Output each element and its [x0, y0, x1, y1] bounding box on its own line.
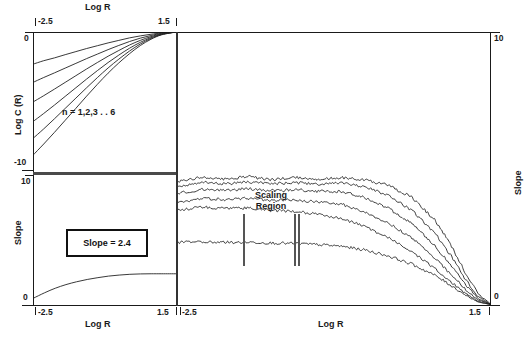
ll-xtick-min: [35, 307, 36, 315]
right-y-axis-title: Slope: [514, 170, 523, 195]
ll-xtick-min-label: -2.5: [38, 308, 53, 317]
slope-value-box: Slope = 2.4: [66, 229, 148, 257]
scaling-region-marker-right-2: [298, 214, 300, 266]
ul-xtick-min: [35, 18, 36, 26]
curve-n-2: [33, 32, 176, 82]
right-axis-left: [176, 32, 178, 306]
ll-xtick-max-label: 1.5: [157, 308, 169, 317]
panel-upper-left: [33, 32, 176, 172]
panel-divider-horizontal: [33, 172, 177, 175]
ul-xtick-min-label: -2.5: [38, 17, 53, 26]
ll-axis-left: [33, 175, 34, 305]
scaling-region-label: Scaling Region: [243, 190, 299, 212]
curve-n-5: [33, 32, 176, 138]
curve-n-2: [178, 206, 490, 304]
ul-xtick-max: [176, 18, 177, 26]
right-ytick-top-label: 10: [494, 34, 503, 43]
ul-ytick-bottom: [22, 170, 33, 171]
ll-ytick-top-label: 10: [21, 177, 30, 186]
upper-left-curves: [33, 32, 176, 172]
ul-xtick-max-label: 1.5: [158, 17, 170, 26]
ul-axis-left: [33, 32, 34, 173]
ll-y-axis-title: Slope: [14, 220, 23, 245]
curve-n-3: [33, 32, 176, 102]
curve-n-3: [178, 197, 490, 304]
right-axis-right: [490, 32, 491, 306]
right-curves: [178, 33, 490, 305]
right-axis-top: [178, 32, 491, 33]
curve-n-4: [178, 188, 490, 305]
ll-ytick-bottom-label: 0: [23, 293, 28, 302]
right-axis-bottom: [178, 305, 491, 306]
ll-axis-bottom: [33, 305, 177, 306]
curve-n-1: [178, 241, 490, 305]
curve-slope: [34, 274, 176, 298]
curve-n-6: [33, 32, 176, 155]
ul-ytick-bottom-label: -10: [14, 158, 26, 167]
right-ytick-bottom-label: 0: [494, 292, 499, 301]
right-xtick-max-label: 1.5: [469, 308, 481, 317]
scaling-region-label-line2: Region: [243, 201, 299, 212]
right-xtick-max: [489, 307, 490, 315]
figure-root: 0 -10 -2.5 1.5 Log R Log C (R) n = 1,2,3…: [0, 0, 529, 337]
right-x-axis-title: Log R: [318, 320, 344, 329]
right-ytick-bottom: [490, 305, 500, 306]
ll-ytick-bottom: [22, 305, 33, 306]
ul-axis-top: [33, 32, 177, 33]
ul-series-annotation: n = 1,2,3 . . 6: [62, 108, 115, 117]
scaling-region-label-line1: Scaling: [243, 190, 299, 201]
ul-x-axis-title: Log R: [85, 3, 111, 12]
curve-n-6: [178, 175, 490, 303]
panel-right: [178, 33, 490, 305]
ul-ytick-top-label: 0: [24, 34, 29, 43]
slope-value-label: Slope = 2.4: [83, 238, 130, 248]
right-xtick-min-label: -2.5: [182, 308, 197, 317]
ul-y-axis-title: Log C (R): [14, 95, 23, 136]
right-xtick-min: [180, 307, 181, 315]
ll-x-axis-title: Log R: [85, 320, 111, 329]
scaling-region-marker-left: [243, 214, 245, 266]
scaling-region-marker-right: [294, 214, 296, 266]
ll-xtick-max: [176, 307, 177, 315]
